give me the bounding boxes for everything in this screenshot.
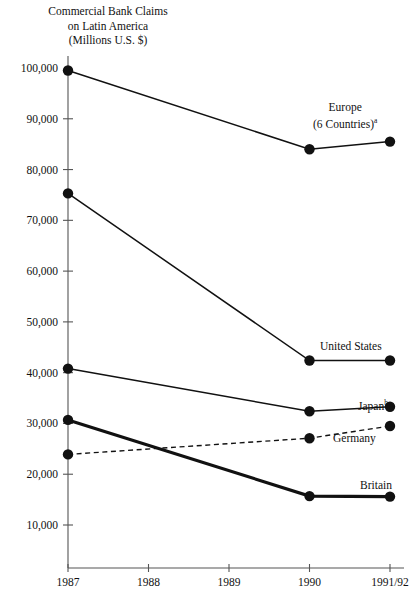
x-axis-tick-label: 1991/92 [371,576,409,588]
line-chart-plot: 10,00020,00030,00040,00050,00060,00070,0… [0,0,415,608]
y-axis-tick-label: 100,000 [21,62,59,75]
footnote-marker-b: b [384,398,388,407]
series-label-europe: Europe (6 Countries)a [313,100,377,131]
series-line-japan [68,369,390,412]
y-axis-tick-label: 60,000 [26,265,58,278]
y-axis-tick-label: 30,000 [26,417,58,430]
data-point [304,144,314,154]
data-point [385,491,395,501]
series-label-europe-line-2: (6 Countries)a [313,114,377,131]
x-axis-tick-label: 1988 [137,576,160,588]
series-line-united-states [68,193,390,360]
data-point [304,406,314,416]
series-label-japan: Japanb [358,396,388,413]
data-point [63,188,73,198]
data-point [63,415,73,425]
y-axis-tick-label: 50,000 [26,316,58,329]
y-axis-tick-label: 70,000 [26,214,58,227]
y-axis-tick-label: 90,000 [26,113,58,126]
data-point [385,355,395,365]
data-point [304,433,314,443]
x-axis-tick-label: 1989 [218,576,241,588]
y-axis-tick-label: 40,000 [26,367,58,380]
y-axis-tick-label: 10,000 [26,519,58,532]
data-point [385,136,395,146]
y-axis-tick-label: 20,000 [26,468,58,481]
data-point [385,421,395,431]
footnote-marker-a: a [374,116,377,125]
y-axis-tick-label: 80,000 [26,164,58,177]
series-label-britain: Britain [360,478,392,492]
data-point [63,449,73,459]
x-axis-tick-label: 1990 [298,576,321,588]
data-point [304,355,314,365]
series-label-united-states: United States [320,339,382,353]
series-label-germany: Germany [333,431,376,445]
chart-container: Commercial Bank Claims on Latin America … [0,0,415,608]
data-point [63,363,73,373]
x-axis-tick-label: 1987 [57,576,80,588]
series-label-europe-line-1: Europe [313,100,377,114]
data-point [63,65,73,75]
data-point [304,491,314,501]
